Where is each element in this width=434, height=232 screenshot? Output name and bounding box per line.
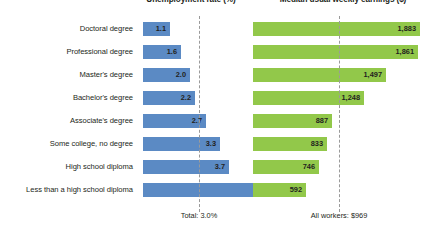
earnings-bar-professional-degree[interactable]: 1,861	[253, 45, 418, 59]
category-label-doctoral-degree: Doctoral degree	[0, 22, 138, 36]
earnings-value-some-college: 833	[311, 137, 323, 151]
category-label-associates-degree: Associate's degree	[0, 114, 138, 128]
earnings-bar-bachelors-degree[interactable]: 1,248	[253, 91, 364, 105]
earnings-average-reference-line	[339, 16, 340, 212]
unemployment-bar-associates-degree[interactable]: 2.7	[143, 114, 206, 128]
right-panel-title: Median usual weekly earnings ($)	[252, 0, 434, 4]
educational-attainment-chart: Unemployment rate (%) Median usual weekl…	[0, 0, 434, 232]
earnings-value-masters-degree: 1,497	[364, 68, 383, 82]
earnings-bar-high-school-diploma[interactable]: 746	[253, 160, 319, 174]
unemployment-bar-masters-degree[interactable]: 2.0	[143, 68, 190, 82]
earnings-value-bachelors-degree: 1,248	[342, 91, 361, 105]
category-label-high-school-diploma: High school diploma	[0, 160, 138, 174]
category-label-masters-degree: Master's degree	[0, 68, 138, 82]
unemployment-bar-doctoral-degree[interactable]: 1.1	[143, 22, 170, 36]
category-label-less-than-high-school: Less than a high school diploma	[0, 183, 138, 197]
unemployment-value-doctoral-degree: 1.1	[156, 22, 166, 36]
unemployment-value-some-college: 3.3	[206, 137, 216, 151]
category-label-professional-degree: Professional degree	[0, 45, 138, 59]
earnings-all-workers-note: All workers: $969	[279, 211, 399, 220]
earnings-bar-masters-degree[interactable]: 1,497	[253, 68, 386, 82]
category-label-bachelors-degree: Bachelor's degree	[0, 91, 138, 105]
earnings-bar-less-than-high-school[interactable]: 592	[253, 183, 306, 197]
unemployment-bar-high-school-diploma[interactable]: 3.7	[143, 160, 229, 174]
unemployment-value-masters-degree: 2.0	[176, 68, 186, 82]
earnings-value-associates-degree: 887	[316, 114, 328, 128]
unemployment-value-professional-degree: 1.6	[167, 45, 177, 59]
earnings-bar-associates-degree[interactable]: 887	[253, 114, 332, 128]
unemployment-bar-less-than-high-school[interactable]: 5.4	[143, 183, 269, 197]
earnings-bar-some-college-no-degree[interactable]: 833	[253, 137, 327, 151]
unemployment-bar-bachelors-degree[interactable]: 2.2	[143, 91, 195, 105]
unemployment-value-associates-degree: 2.7	[192, 114, 202, 128]
earnings-value-doctoral-degree: 1,883	[398, 22, 417, 36]
unemployment-value-high-school-diploma: 3.7	[215, 160, 225, 174]
earnings-value-less-than-high-school: 592	[290, 183, 302, 197]
unemployment-bar-some-college-no-degree[interactable]: 3.3	[143, 137, 220, 151]
earnings-bar-doctoral-degree[interactable]: 1,883	[253, 22, 420, 36]
unemployment-total-note: Total: 3.0%	[139, 211, 259, 220]
unemployment-bar-professional-degree[interactable]: 1.6	[143, 45, 181, 59]
earnings-value-high-school-diploma: 746	[303, 160, 315, 174]
unemployment-average-reference-line	[199, 16, 200, 212]
left-panel-title: Unemployment rate (%)	[131, 0, 251, 4]
earnings-value-professional-degree: 1,861	[396, 45, 415, 59]
category-label-some-college-no-degree: Some college, no degree	[0, 137, 138, 151]
unemployment-value-bachelors-degree: 2.2	[181, 91, 191, 105]
